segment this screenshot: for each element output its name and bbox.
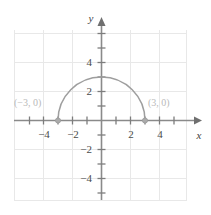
y-tick-label-neg4: −4 (80, 172, 92, 184)
x-tick-label-pos2: 2 (128, 128, 134, 140)
y-tick-label-pos2: 2 (87, 85, 93, 97)
right-point-label: (3, 0) (148, 97, 170, 109)
left-point-label: (−3, 0) (14, 97, 41, 109)
y-tick-label-neg2: −2 (80, 143, 92, 155)
y-axis-label: y (88, 12, 94, 24)
coordinate-plane: −4 −2 2 4 4 2 −2 −4 x y (−3, 0) (3, 0) (0, 0, 211, 215)
right-endpoint-dot (142, 118, 147, 123)
x-tick-label-neg2: −2 (67, 128, 79, 140)
x-tick-label-pos4: 4 (157, 128, 163, 140)
y-tick-label-pos4: 4 (87, 56, 93, 68)
graph-figure: −4 −2 2 4 4 2 −2 −4 x y (−3, 0) (3, 0) (0, 0, 211, 215)
left-endpoint-dot (55, 118, 60, 123)
x-tick-label-neg4: −4 (38, 128, 50, 140)
x-axis-label: x (196, 129, 202, 141)
